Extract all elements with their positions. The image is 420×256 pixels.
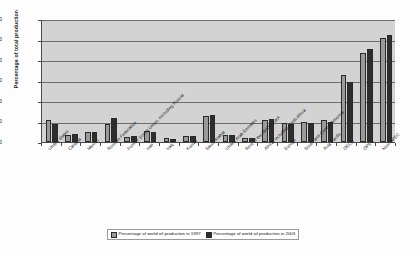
x-axis-label-4: Former Soviet Union, excluding Russia: [126, 148, 130, 152]
x-axis-tick-mark: [356, 143, 357, 146]
bar-1997: [203, 116, 209, 142]
plot-area: [41, 20, 395, 143]
y-axis-tick-label: 40: [0, 59, 2, 64]
x-axis-tick-mark: [218, 143, 219, 146]
bar-2003: [367, 49, 373, 142]
x-axis-label-1: Canada: [67, 148, 71, 152]
x-axis-label-12: Europe: [283, 148, 287, 152]
y-axis-title: Percentage of total production: [13, 0, 19, 109]
x-axis-tick-mark: [277, 143, 278, 146]
legend-label-1997: Percentage of world oil production in 19…: [119, 232, 201, 237]
x-axis-tick-mark: [139, 143, 140, 146]
bar-2003: [347, 82, 353, 142]
bar-1997: [85, 132, 91, 142]
legend-label-2003: Percentage of world oil production in 20…: [213, 232, 295, 237]
y-axis-tick-label: 0: [0, 141, 2, 146]
x-axis-label-3: Russian Federation: [106, 148, 110, 152]
x-axis-tick-mark: [120, 143, 121, 146]
y-axis-tick-label: 50: [0, 38, 2, 43]
bar-series-container: [42, 20, 395, 142]
bar-group: [223, 20, 236, 142]
bar-group: [85, 20, 98, 142]
x-axis-label-6: Iraq: [165, 148, 169, 152]
y-axis-tick-label: 10: [0, 120, 2, 125]
x-axis-tick-mark: [257, 143, 258, 146]
x-axis-tick-mark: [238, 143, 239, 146]
bar-1997: [105, 124, 111, 142]
x-axis-tick-mark: [61, 143, 62, 146]
bar-1997: [46, 120, 52, 142]
bar-1997: [301, 122, 307, 143]
bar-1997: [223, 135, 229, 142]
x-axis-tick-mark: [395, 143, 396, 146]
x-axis-tick-mark: [100, 143, 101, 146]
x-axis-tick-mark: [159, 143, 160, 146]
bar-2003: [151, 132, 157, 142]
x-axis-label-17: Non-OPEC: [381, 148, 385, 152]
bar-group: [183, 20, 196, 142]
x-axis-label-10: Rest of the Middle East: [244, 148, 248, 152]
bar-2003: [387, 35, 393, 142]
x-axis-tick-mark: [375, 143, 376, 146]
x-axis-label-7: Kuwait: [185, 148, 189, 152]
x-axis-label-16: OPEC: [362, 148, 366, 152]
x-axis-label-15: OECD: [342, 148, 346, 152]
x-axis-tick-mark: [198, 143, 199, 146]
bar-group: [380, 20, 393, 142]
bar-group: [105, 20, 118, 142]
bar-1997: [360, 53, 366, 142]
bar-group: [164, 20, 177, 142]
bar-1997: [124, 137, 130, 142]
bar-group: [203, 20, 216, 142]
x-axis-tick-mark: [336, 143, 337, 146]
x-axis-tick-mark: [80, 143, 81, 146]
legend-swatch-icon-1997: [111, 232, 117, 238]
x-axis-tick-mark: [297, 143, 298, 146]
x-axis-label-5: Iran: [145, 148, 149, 152]
x-axis-label-8: Saudi Arabia: [204, 148, 208, 152]
y-axis-tick-label: 30: [0, 79, 2, 84]
bar-group: [341, 20, 354, 142]
x-axis-tick-mark: [41, 143, 42, 146]
legend-item-1997: Percentage of world oil production in 19…: [111, 232, 201, 238]
chart-legend: Percentage of world oil production in 19…: [107, 229, 299, 240]
legend-item-2003: Percentage of world oil production in 20…: [206, 232, 296, 238]
x-axis-tick-mark: [179, 143, 180, 146]
bar-group: [360, 20, 373, 142]
y-axis-tick-label: 20: [0, 100, 2, 105]
x-axis-label-14: Asia Pacific: [322, 148, 326, 152]
x-axis-label-2: Mexico: [86, 148, 90, 152]
bar-group: [301, 20, 314, 142]
x-axis-label-9: United Arab Emirates: [224, 148, 228, 152]
bar-1997: [242, 138, 248, 142]
bar-1997: [164, 138, 170, 142]
chart-canvas: Percentage of total production 010203040…: [0, 0, 420, 256]
x-axis-tick-mark: [316, 143, 317, 146]
x-axis-label-11: Africa, including North Africa: [263, 148, 267, 152]
x-axis-label-13: South and Central America: [303, 148, 307, 152]
bar-1997: [183, 136, 189, 142]
x-axis-label-0: United States: [47, 148, 51, 152]
bar-group: [65, 20, 78, 142]
bar-group: [46, 20, 59, 142]
y-axis-tick-label: 60: [0, 18, 2, 23]
bar-1997: [380, 38, 386, 142]
legend-swatch-icon-2003: [206, 232, 212, 238]
